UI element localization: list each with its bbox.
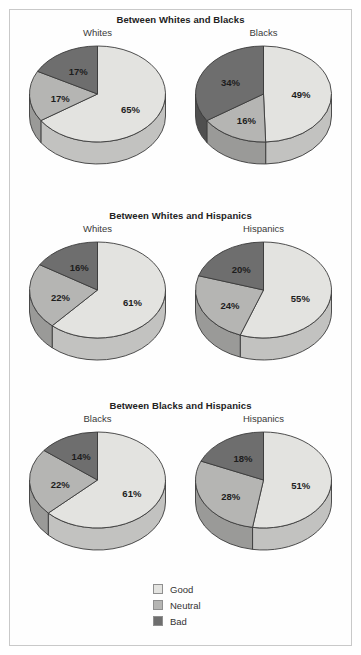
pie-chart-whites: 65%17%17% (16, 40, 179, 168)
panel-whites-blacks: Between Whites and Blacks Whites 65%17%1… (16, 14, 345, 210)
legend-swatch-good (153, 584, 163, 594)
pie-block-blacks: Blacks 49%16%34% (182, 26, 345, 168)
pie-pair: Whites 61%22%16% Hispanics 55%24%20% (16, 222, 345, 364)
legend-swatch-neutral (153, 600, 163, 610)
pie-label: Blacks (16, 412, 179, 425)
pie-label: Hispanics (182, 412, 345, 425)
pie-block-hispanics: Hispanics 51%28%18% (182, 412, 345, 554)
legend-item-bad: Bad (153, 613, 253, 629)
legend-label: Good (170, 584, 193, 595)
legend-label: Bad (170, 616, 187, 627)
pie-chart-hispanics: 55%24%20% (182, 236, 345, 364)
legend-items: Good Neutral Bad (108, 581, 253, 629)
pie-pair: Blacks 61%22%14% Hispanics 51%28%18% (16, 412, 345, 554)
panel-blacks-hispanics: Between Blacks and Hispanics Blacks 61%2… (16, 400, 345, 590)
pie-chart-blacks: 61%22%14% (16, 426, 179, 554)
pie-block-whites: Whites 61%22%16% (16, 222, 179, 364)
panel-title: Between Whites and Blacks (16, 14, 345, 26)
pie-pair: Whites 65%17%17% Blacks 49%16%34% (16, 26, 345, 168)
pie-chart-hispanics: 51%28%18% (182, 426, 345, 554)
pie-block-blacks: Blacks 61%22%14% (16, 412, 179, 554)
panels-container: Between Whites and Blacks Whites 65%17%1… (10, 10, 351, 645)
legend-item-good: Good (153, 581, 253, 597)
pie-label: Whites (16, 222, 179, 235)
pie-chart-whites: 61%22%16% (16, 236, 179, 364)
pie-label: Hispanics (182, 222, 345, 235)
figure-root: Between Whites and Blacks Whites 65%17%1… (0, 0, 361, 655)
pie-block-whites: Whites 65%17%17% (16, 26, 179, 168)
legend-swatch-bad (153, 616, 163, 626)
legend: Good Neutral Bad (10, 581, 351, 629)
pie-block-hispanics: Hispanics 55%24%20% (182, 222, 345, 364)
legend-label: Neutral (170, 600, 201, 611)
panel-whites-hispanics: Between Whites and Hispanics Whites 61%2… (16, 210, 345, 400)
panel-title: Between Blacks and Hispanics (16, 400, 345, 412)
pie-label: Whites (16, 26, 179, 39)
pie-label: Blacks (182, 26, 345, 39)
pie-chart-blacks: 49%16%34% (182, 40, 345, 168)
legend-item-neutral: Neutral (153, 597, 253, 613)
panel-title: Between Whites and Hispanics (16, 210, 345, 222)
